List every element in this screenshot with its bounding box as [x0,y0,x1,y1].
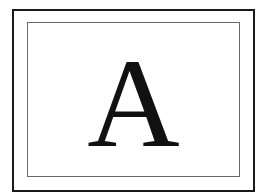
letter-glyph: A [28,23,239,176]
inner-frame: A [27,22,240,177]
